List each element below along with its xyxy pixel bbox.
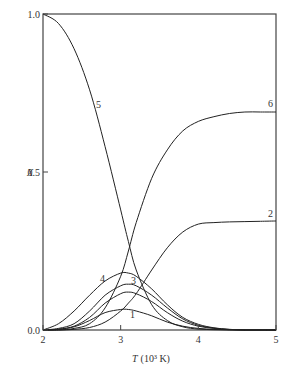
- ticks: 23450.00.51.0: [28, 9, 279, 346]
- x-axis-label: T(10³ K): [132, 353, 170, 365]
- curve-1: [43, 309, 276, 330]
- curve-label-1: 1: [130, 309, 135, 320]
- curve-5: [43, 14, 276, 330]
- y-tick-label: 0.0: [28, 325, 41, 336]
- curve-label-6: 6: [268, 98, 273, 109]
- x-tick-label: 4: [196, 334, 201, 345]
- x-tick-label: 2: [41, 334, 46, 345]
- curve-unlabeled: [43, 292, 276, 330]
- y-tick-label: 1.0: [28, 9, 41, 20]
- x-tick-label: 5: [274, 334, 279, 345]
- curve-label-4: 4: [100, 273, 105, 284]
- curve-label-2: 2: [268, 208, 273, 219]
- curves: [43, 14, 276, 330]
- x-tick-label: 3: [118, 334, 123, 345]
- curve-label-3: 3: [131, 275, 136, 286]
- curve-label-5: 5: [96, 99, 101, 110]
- chart-canvas: 23450.00.51.0 123456 X T(10³ K): [0, 0, 286, 370]
- curve-labels: 123456: [96, 98, 273, 320]
- y-axis-label: X: [26, 167, 34, 178]
- plot-frame: [43, 14, 276, 330]
